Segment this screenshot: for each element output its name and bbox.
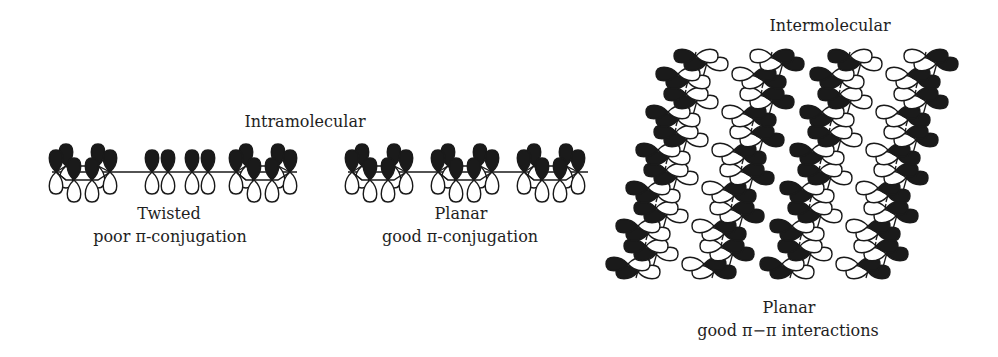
planar-chain bbox=[345, 144, 588, 202]
planar-intra-title: Planar bbox=[435, 206, 488, 222]
planar-inter-subtitle: good π−π interactions bbox=[697, 323, 879, 339]
twisted-subtitle: poor π-conjugation bbox=[93, 229, 247, 245]
intramolecular-heading: Intramolecular bbox=[244, 114, 365, 130]
planar-intra-subtitle: good π-conjugation bbox=[382, 229, 538, 245]
planar-inter-title: Planar bbox=[763, 300, 816, 316]
twisted-title: Twisted bbox=[137, 206, 200, 222]
intermolecular-heading: Intermolecular bbox=[769, 18, 890, 34]
orbital-diagram bbox=[0, 0, 998, 357]
twisted-chain bbox=[49, 144, 297, 202]
